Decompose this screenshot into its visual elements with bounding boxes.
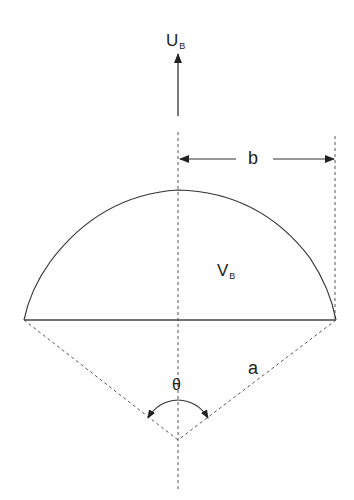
- angle-label: θ: [172, 377, 181, 393]
- half-width-label: b: [248, 149, 258, 167]
- theta-angle-arc: [178, 400, 208, 418]
- radius-label: a: [248, 359, 258, 377]
- volume-label-main: V: [217, 261, 228, 280]
- velocity-label: UB: [166, 32, 185, 51]
- bubble-cap-arc: [24, 190, 336, 320]
- volume-label: VB: [217, 262, 235, 281]
- angle-label-text: θ: [172, 376, 181, 393]
- half-width-label-text: b: [248, 148, 258, 168]
- volume-label-sub: B: [229, 271, 235, 281]
- bubble-diagram: [0, 0, 354, 500]
- radius-right-dashed: [178, 320, 336, 440]
- velocity-label-sub: B: [179, 41, 185, 51]
- radius-label-text: a: [248, 358, 258, 378]
- velocity-label-main: U: [166, 31, 178, 50]
- theta-angle-arc-left: [148, 400, 178, 418]
- radius-left-dashed: [24, 320, 178, 440]
